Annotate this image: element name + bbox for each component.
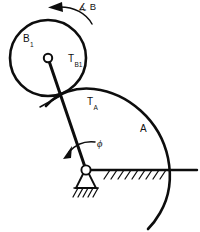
pivot-pin (81, 165, 90, 174)
label-omega-b: ∡ B (78, 2, 96, 12)
label-body-b1-text: B (23, 33, 30, 44)
label-torque-a-subscript: A (93, 104, 97, 111)
pin-support-hatching (73, 188, 98, 197)
label-body-b1: B1 (23, 34, 33, 47)
ground-hatching (104, 170, 166, 179)
kinematics-figure: B1 TB1 TA A ϕ ∡ B (0, 0, 200, 232)
body-b1-hub (44, 54, 52, 62)
connecting-link (48, 58, 86, 170)
contact-tick-mark (40, 96, 60, 107)
rotation-arrow-phi-head (63, 146, 72, 159)
label-body-a: A (140, 124, 147, 134)
label-torque-b1: TB1 (68, 54, 82, 67)
label-body-b1-subscript: 1 (30, 41, 34, 48)
label-angle-phi: ϕ (97, 139, 102, 150)
label-torque-b1-subscript: B1 (74, 61, 82, 68)
label-torque-a: TA (87, 97, 97, 110)
rotation-arrow-b-head (48, 2, 63, 12)
